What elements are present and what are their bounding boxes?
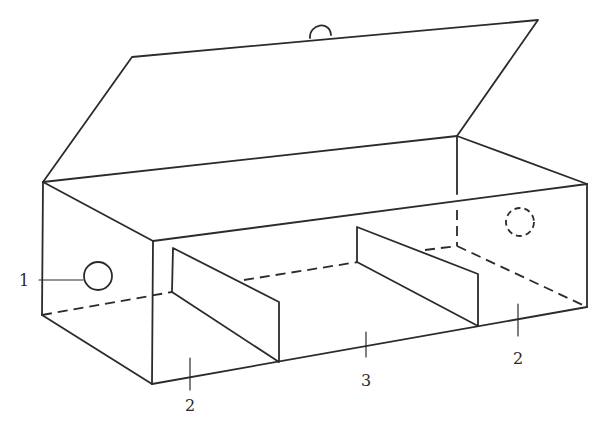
box-rim <box>43 136 587 241</box>
box-diagram: 1 2 3 2 <box>0 0 599 423</box>
divider-left <box>172 248 279 362</box>
box-drawing <box>0 0 599 423</box>
left-end-hole <box>84 262 112 290</box>
lid-handle-loop <box>310 25 331 38</box>
divider-right <box>357 227 478 326</box>
label-1: 1 <box>19 273 29 289</box>
label-2-right: 2 <box>513 351 523 367</box>
label-3: 3 <box>361 373 371 389</box>
label-2-left: 2 <box>185 398 195 414</box>
right-end-hole-hidden <box>506 208 534 236</box>
lid <box>43 20 538 182</box>
